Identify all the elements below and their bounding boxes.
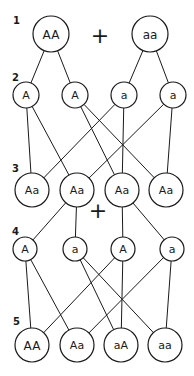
genotype-label: AA (24, 339, 42, 353)
genotype-label: Aa (115, 184, 129, 197)
allele-node-g2: A (62, 82, 88, 108)
genotype-label: a (170, 89, 177, 102)
genotype-label: A (21, 243, 29, 256)
genotype-label: Aa (159, 184, 173, 197)
genotype-label: AA (43, 28, 61, 42)
connector-line (166, 261, 171, 328)
genotype-label: Aa (70, 339, 84, 352)
connector-line (27, 108, 31, 173)
connector-line (83, 258, 153, 333)
allele-node-f2c: aA (104, 328, 138, 362)
connector-line (89, 258, 164, 333)
connector-line (129, 51, 143, 83)
genotype-label: a (169, 243, 176, 256)
generation-number: 2 (12, 72, 19, 83)
genotype-label: aA (114, 339, 129, 352)
genotype-label: A (119, 243, 127, 256)
connector-line (89, 104, 164, 178)
allele-node-g4: a (160, 82, 186, 108)
connector-line (33, 203, 66, 240)
allele-node-f2a: AA (15, 328, 49, 362)
allele-node-f2d: aa (148, 328, 182, 362)
diagram-canvas: AAaaAAaaAaAaAaAaAaAaAAAaaAaa 12345++ (0, 0, 194, 376)
connector-line (58, 51, 71, 83)
connector-line (156, 51, 168, 83)
labels-layer: 12345++ (12, 15, 109, 327)
connector-line (31, 51, 44, 83)
generation-number: 4 (12, 226, 19, 237)
genotype-label: A (71, 89, 79, 102)
connector-line (75, 207, 76, 237)
genotype-label: Aa (70, 184, 84, 197)
connector-line (81, 107, 115, 175)
allele-node-f1c: Aa (105, 173, 139, 207)
connector-line (80, 260, 113, 330)
connector-line (122, 108, 123, 173)
genotype-label: A (22, 89, 30, 102)
allele-node-h2: a (63, 237, 87, 261)
cross-plus-sign: + (91, 23, 109, 48)
cross-plus-sign: + (89, 198, 107, 223)
genotype-label: a (72, 243, 79, 256)
generation-number: 1 (13, 15, 20, 26)
connector-line (84, 104, 154, 177)
allele-node-p2: aa (132, 16, 168, 52)
allele-node-g3: a (111, 82, 137, 108)
allele-node-h1: A (13, 237, 37, 261)
allele-node-p1: AA (33, 16, 69, 52)
genotype-label: aa (143, 28, 158, 42)
allele-node-h4: a (160, 237, 184, 261)
connector-line (26, 261, 31, 328)
connector-line (133, 203, 164, 240)
connector-line (31, 260, 69, 331)
generation-number: 3 (12, 163, 19, 174)
connector-line (44, 104, 115, 177)
genotype-label: a (121, 89, 128, 102)
genotype-label: Aa (25, 184, 39, 197)
connector-line (121, 261, 122, 328)
allele-node-f1d: Aa (149, 173, 183, 207)
allele-node-f2b: Aa (60, 328, 94, 362)
connector-line (32, 106, 69, 175)
connector-line (44, 258, 115, 333)
allele-node-h3: A (111, 237, 135, 261)
connector-line (122, 207, 123, 237)
genotype-label: aa (158, 339, 171, 352)
nodes-layer: AAaaAAaaAaAaAaAaAaAaAAAaaAaa (13, 16, 186, 362)
connector-line (167, 108, 172, 173)
generation-number: 5 (13, 316, 20, 327)
genetics-cross-diagram: AAaaAAaaAaAaAaAaAaAaAAAaaAaa 12345++ (0, 0, 194, 376)
allele-node-f1a: Aa (15, 173, 49, 207)
allele-node-g1: A (13, 82, 39, 108)
